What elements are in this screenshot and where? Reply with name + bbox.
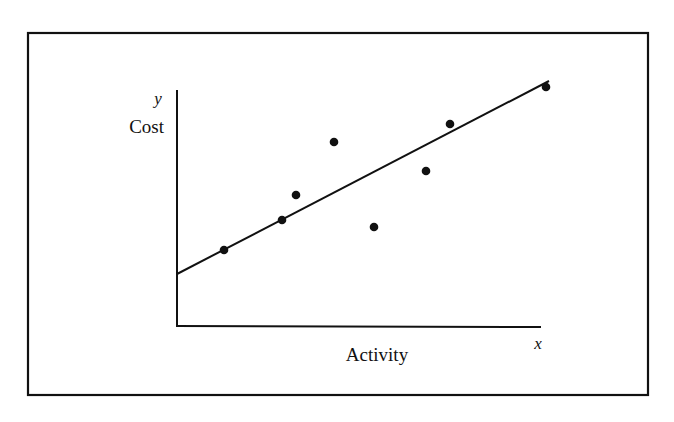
x-axis <box>176 326 541 327</box>
scatter-chart-figure: y Cost x Activity <box>0 0 674 422</box>
chart-canvas: y Cost x Activity <box>0 0 674 422</box>
data-point <box>220 246 229 255</box>
y-axis-symbol: y <box>152 89 162 108</box>
figure-border <box>28 33 648 395</box>
data-point <box>422 167 431 176</box>
data-points <box>220 83 551 255</box>
data-point <box>330 138 339 147</box>
x-axis-label: Activity <box>346 344 409 365</box>
data-point <box>542 83 551 92</box>
data-point <box>446 120 455 129</box>
regression-line <box>177 81 549 274</box>
x-axis-symbol: x <box>533 334 542 353</box>
data-point <box>370 223 379 232</box>
data-point <box>278 216 287 225</box>
data-point <box>292 191 301 200</box>
y-axis-label: Cost <box>129 116 165 137</box>
